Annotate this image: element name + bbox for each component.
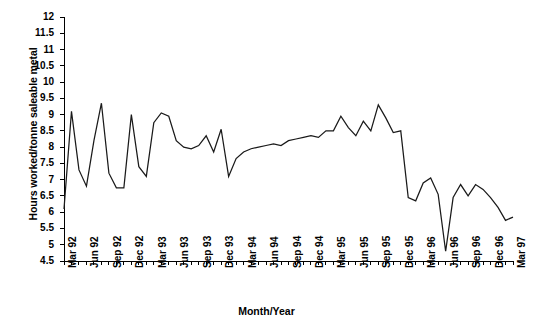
x-axis-ticks bbox=[64, 261, 513, 265]
data-series-line bbox=[64, 103, 513, 251]
y-axis-ticks bbox=[60, 17, 64, 261]
line-chart: Hours worked/tonne saleable metal Month/… bbox=[0, 0, 533, 331]
plot-area bbox=[0, 0, 533, 331]
